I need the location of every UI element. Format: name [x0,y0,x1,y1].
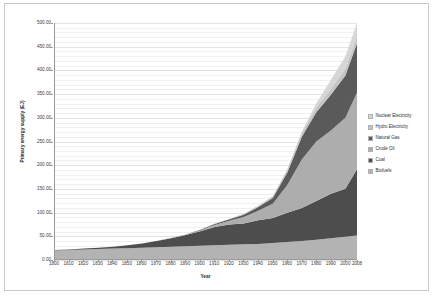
x-axis-tick-labels: 1800181018201830184018501860187018801890… [54,262,357,272]
legend-label: Hydro Electricity [375,125,408,130]
x-axis-tick-label: 1870 [151,262,161,267]
y-axis-tick-label: 450.00 [5,44,51,49]
legend-swatch-icon [368,158,373,163]
x-axis-tick-mark [243,260,244,262]
legend-item-natural-gas[interactable]: Natural Gas [368,136,430,141]
x-axis-tick-label: 1800 [49,262,59,267]
x-axis-tick-mark [287,260,288,262]
legend-item-hydro-electricity[interactable]: Hydro Electricity [368,125,430,130]
y-axis-tick-label: 0.00 [5,258,51,263]
legend-label: Nuclear Electricity [375,114,411,119]
x-axis-tick-label: 1860 [136,262,146,267]
chart-legend: Nuclear ElectricityHydro ElectricityNatu… [368,114,430,174]
y-axis-tick-mark [51,236,53,237]
y-axis-tick-labels: 0.0050.00100.00150.00200.00250.00300.003… [5,23,51,260]
x-axis-tick-label: 1920 [224,262,234,267]
legend-label: Crude Oil [375,147,394,152]
legend-swatch-icon [368,125,373,130]
x-axis-tick-label: 1960 [282,262,292,267]
y-axis-tick-mark [51,189,53,190]
x-axis-tick-label: 1900 [195,262,205,267]
legend-item-nuclear-electricity[interactable]: Nuclear Electricity [368,114,430,119]
x-axis-tick-label: 1810 [63,262,73,267]
x-axis-tick-mark [273,260,274,262]
x-axis-tick-mark [112,260,113,262]
x-axis-tick-label: 1970 [297,262,307,267]
legend-label: Coal [375,158,384,163]
y-axis-tick-mark [51,70,53,71]
x-axis-tick-mark [171,260,172,262]
x-axis-tick-mark [69,260,70,262]
x-axis-tick-mark [345,260,346,262]
x-axis-tick-label: 1950 [267,262,277,267]
x-axis-tick-mark [127,260,128,262]
x-axis-tick-mark [229,260,230,262]
y-axis-tick-label: 100.00 [5,210,51,215]
y-axis-tick-mark [51,142,53,143]
x-axis-tick-mark [357,260,358,262]
x-axis-tick-label: 1930 [238,262,248,267]
x-axis-tick-mark [98,260,99,262]
y-axis-tick-mark [51,94,53,95]
legend-item-biofuels[interactable]: Biofuels [368,169,430,174]
x-axis-tick-label: 1850 [122,262,132,267]
x-axis-tick-label: 1830 [93,262,103,267]
x-axis-tick-mark [156,260,157,262]
plot-area [54,23,357,260]
y-axis-tick-label: 300.00 [5,116,51,121]
y-axis-tick-mark [51,47,53,48]
x-axis-tick-mark [200,260,201,262]
y-axis-tick-mark [51,118,53,119]
legend-label: Biofuels [375,169,391,174]
x-axis-tick-label: 1940 [253,262,263,267]
x-axis-tick-label: 1910 [209,262,219,267]
x-axis-tick-label: 2008 [352,262,362,267]
x-axis-title: Year [54,274,357,279]
legend-swatch-icon [368,136,373,141]
y-axis-tick-mark [51,23,53,24]
x-axis-tick-mark [54,260,55,262]
x-axis-tick-mark [214,260,215,262]
x-axis-tick-label: 1820 [78,262,88,267]
legend-item-coal[interactable]: Coal [368,158,430,163]
x-axis-tick-mark [258,260,259,262]
legend-swatch-icon [368,147,373,152]
legend-swatch-icon [368,114,373,119]
x-axis-tick-mark [316,260,317,262]
x-axis-tick-label: 1890 [180,262,190,267]
y-axis-tick-label: 350.00 [5,92,51,97]
y-axis-tick-mark [51,165,53,166]
y-axis-tick-label: 50.00 [5,234,51,239]
x-axis-tick-mark [141,260,142,262]
x-axis-tick-mark [302,260,303,262]
y-axis-tick-label: 200.00 [5,163,51,168]
y-axis-tick-mark [51,213,53,214]
y-axis-tick-label: 150.00 [5,187,51,192]
x-axis-tick-mark [185,260,186,262]
x-axis-tick-mark [83,260,84,262]
chart-frame: Primary energy supply (EJ) 0.0050.00100.… [4,3,429,291]
x-axis-tick-label: 1840 [107,262,117,267]
x-axis-tick-label: 1880 [165,262,175,267]
x-axis-tick-label: 1990 [326,262,336,267]
legend-label: Natural Gas [375,136,399,141]
legend-swatch-icon [368,169,373,174]
y-axis-tick-label: 400.00 [5,68,51,73]
x-axis-tick-mark [331,260,332,262]
legend-item-crude-oil[interactable]: Crude Oil [368,147,430,152]
stacked-area-series [55,23,357,259]
y-axis-tick-label: 500.00 [5,21,51,26]
x-axis-tick-label: 1980 [311,262,321,267]
y-axis-tick-label: 250.00 [5,139,51,144]
x-axis-tick-label: 2000 [340,262,350,267]
